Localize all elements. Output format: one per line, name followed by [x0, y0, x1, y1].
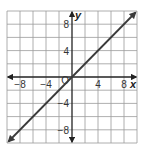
x-tick-label: −8: [14, 79, 26, 90]
y-tick-label: −4: [58, 98, 70, 109]
coordinate-plane: −8−44884−4−8O xy: [0, 0, 145, 149]
y-tick-label: −8: [58, 125, 70, 136]
x-tick-label: −4: [40, 79, 52, 90]
y-tick-label: 8: [63, 19, 69, 30]
x-axis-label: x: [129, 78, 137, 90]
y-tick-label: 4: [63, 46, 69, 57]
y-axis-label: y: [74, 9, 82, 21]
x-tick-label: 4: [95, 79, 101, 90]
x-tick-label: 8: [121, 79, 127, 90]
